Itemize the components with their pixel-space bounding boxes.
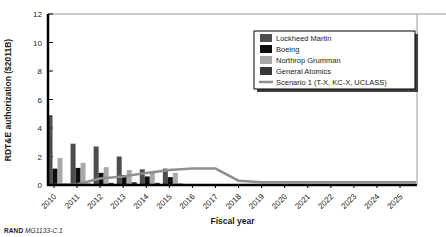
x-tick-label: 2012 [86,192,105,211]
x-tick-label: 2025 [386,192,405,211]
x-tick-label: 2017 [201,192,220,211]
figure: 0246810122010201120122013201420152016201… [0,0,446,237]
bar-lockheed-martin [140,169,145,185]
x-tick-label: 2018 [224,192,243,211]
legend-label: Boeing [276,45,299,54]
y-tick-label: 10 [33,39,42,48]
x-tick-label: 2019 [247,192,266,211]
x-tick-label: 2022 [316,192,335,211]
x-tick-label: 2023 [339,192,358,211]
x-tick-label: 2021 [293,192,312,211]
y-tick-label: 2 [38,153,43,162]
x-tick-label: 2014 [132,192,151,211]
y-tick-label: 8 [38,67,43,76]
y-axis-title: RDT&E authorization ($2011B) [3,39,13,161]
y-tick-label: 12 [33,10,42,19]
x-tick-label: 2024 [362,192,381,211]
bar-boeing [145,176,150,185]
y-tick-label: 4 [38,124,43,133]
chart-svg: 0246810122010201120122013201420152016201… [0,0,446,237]
y-tick-label: 6 [38,96,43,105]
legend-label: Northrop Grumman [276,56,341,65]
y-tick-label: 0 [38,181,43,190]
x-tick-label: 2010 [39,192,58,211]
legend-label: Lockheed Martin [276,34,331,43]
bar-northrop-grumman [104,167,109,185]
x-tick-label: 2015 [155,192,174,211]
x-axis-title: Fiscal year [211,216,256,226]
x-tick-label: 2016 [178,192,197,211]
legend-label: Scenario 1 (T-X, KC-X, UCLASS) [276,78,387,87]
bar-lockheed-martin [117,157,122,186]
footer-doc-id: MG1133-C.1 [25,227,63,234]
bar-northrop-grumman [173,173,178,185]
bar-northrop-grumman [127,170,132,185]
legend-swatch [260,56,272,64]
legend-swatch [260,67,272,75]
x-tick-label: 2020 [270,192,289,211]
bar-northrop-grumman [58,158,63,185]
footer-note: RAND MG1133-C.1 [4,227,63,234]
bar-lockheed-martin [71,144,76,185]
legend-label: General Atomics [276,67,331,76]
legend-swatch [260,34,272,42]
x-tick-label: 2013 [109,192,128,211]
legend-swatch [260,45,272,53]
footer-brand: RAND [4,227,23,234]
x-tick-label: 2011 [63,192,82,211]
bar-boeing [53,169,58,185]
